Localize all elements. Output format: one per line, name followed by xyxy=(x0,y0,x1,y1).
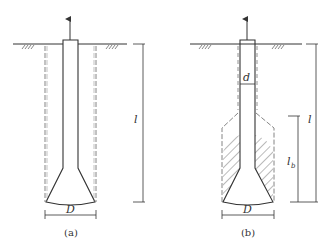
caption-b: (b) xyxy=(241,227,255,238)
pile-outline-a xyxy=(46,40,95,205)
shaft-diameter-label: d xyxy=(243,71,250,84)
soil-hatch-icon xyxy=(199,45,284,49)
panel-b: d D l l b (b) xyxy=(190,19,318,238)
diameter-label-a: D xyxy=(65,203,75,216)
hatched-soil-right xyxy=(255,135,273,202)
caption-a: (a) xyxy=(64,227,78,238)
hatched-soil-left xyxy=(223,135,240,202)
bell-length-subscript: b xyxy=(291,162,296,170)
diameter-label-b: D xyxy=(242,203,252,216)
panel-a: D l (a) xyxy=(13,19,145,238)
pile-uplift-diagram: D l (a) d xyxy=(0,0,331,249)
length-label-a: l xyxy=(134,113,138,126)
length-label-b: l xyxy=(308,113,312,126)
